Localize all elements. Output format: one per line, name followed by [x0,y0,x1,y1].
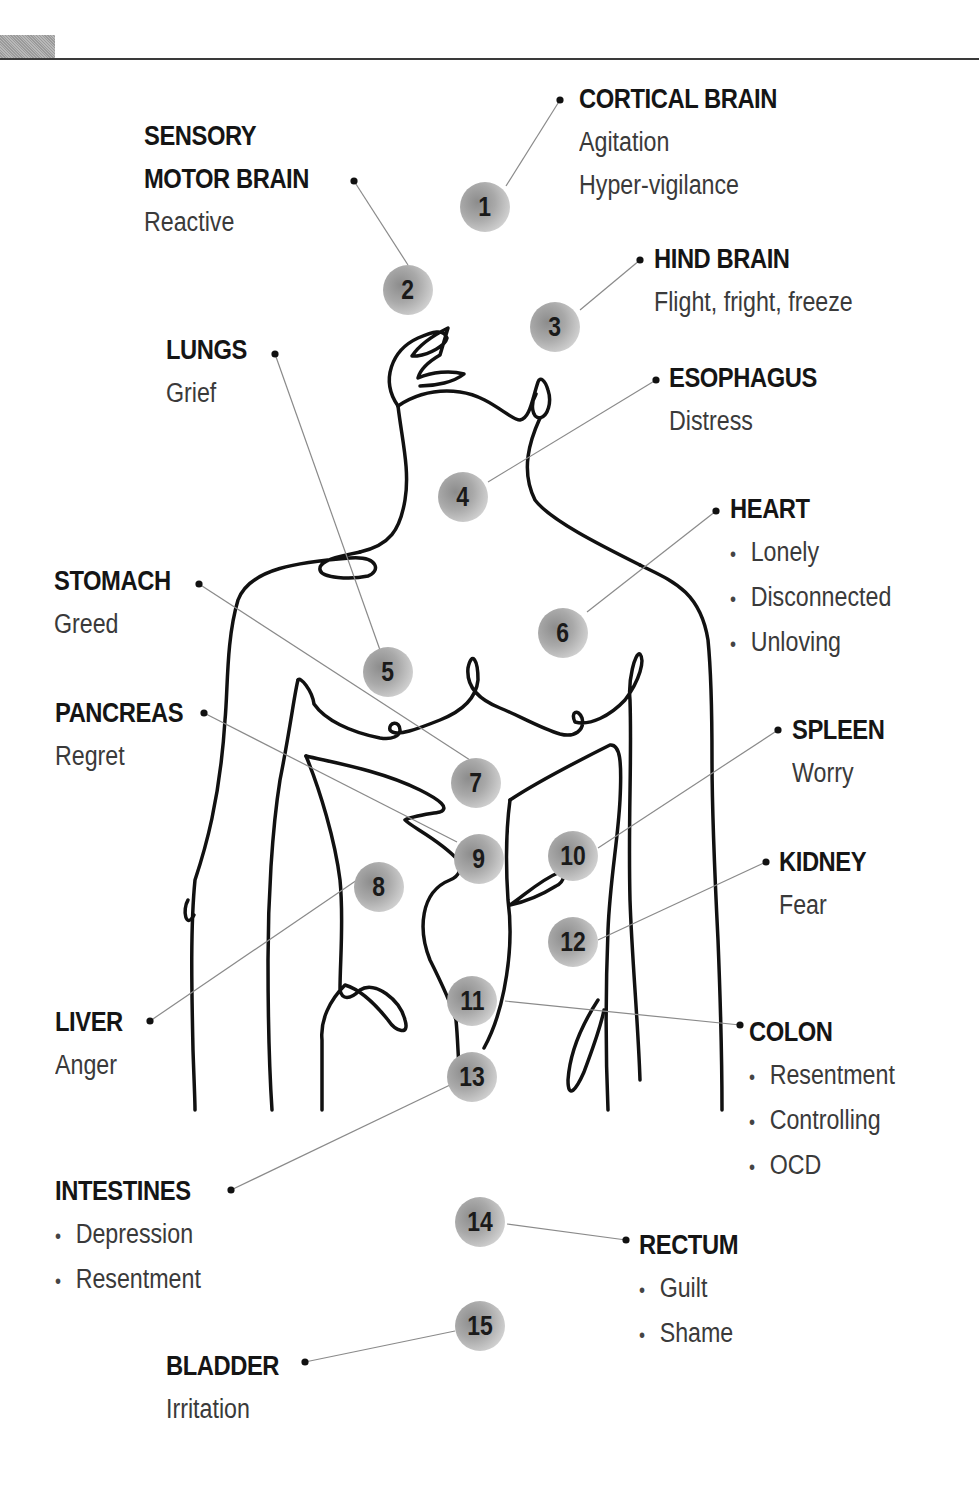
organ-label-sensory-motor-brain: SENSORYMOTOR BRAINReactive [144,115,332,244]
number-marker-15: 15 [455,1301,505,1351]
connector-dot-icon [774,726,781,733]
connector-line [199,584,470,760]
emotion-item: •Controlling [749,1099,895,1144]
organ-label-hind-brain: HIND BRAINFlight, fright, freeze [654,238,885,324]
number-marker-14: 14 [455,1197,505,1247]
emotion-text: Guilt [660,1273,708,1303]
number-marker-11: 11 [447,976,497,1026]
emotion-text: Worry [792,752,882,795]
organ-title: PANCREAS [55,692,183,735]
emotion-item: •Lonely [730,531,891,576]
connector-line [305,1331,455,1362]
organ-label-spleen: SPLEENWorry [792,709,897,795]
connector-dot-icon [736,1021,743,1028]
marker-number: 2 [402,275,415,306]
number-marker-10: 10 [548,831,598,881]
organ-label-kidney: KIDNEYFear [779,841,878,927]
connector-dot-icon [762,858,769,865]
connector-line [231,1085,450,1190]
bullet-icon: • [730,533,751,576]
connector-dot-icon [636,256,643,263]
organ-title: CORTICAL BRAIN [579,78,777,121]
organ-title: KIDNEY [779,841,866,884]
number-marker-4: 4 [438,472,488,522]
marker-number: 13 [459,1062,485,1093]
emotion-text: Resentment [770,1060,895,1090]
emotion-item: •Unloving [730,621,891,666]
connector-line [507,1224,626,1240]
emotion-list: •Lonely•Disconnected•Unloving [730,531,918,666]
organ-title: LUNGS [166,329,247,372]
bullet-icon: • [55,1215,76,1258]
emotion-text: Shame [660,1318,734,1348]
emotion-text: OCD [770,1150,822,1180]
connector-line [580,260,640,310]
organ-title: INTESTINES [55,1170,204,1213]
emotion-text: Controlling [770,1105,881,1135]
organ-label-intestines: INTESTINES•Depression•Resentment [55,1170,225,1303]
number-marker-8: 8 [354,862,404,912]
marker-number: 15 [467,1311,493,1342]
bullet-icon: • [730,623,751,666]
organ-title: LIVER [55,1001,123,1044]
organ-label-rectum: RECTUM•Guilt•Shame [639,1224,752,1357]
connector-line [598,730,778,848]
marker-number: 10 [560,841,586,872]
connector-dot-icon [200,709,207,716]
emotion-item: •Disconnected [730,576,891,621]
connector-line [275,354,380,650]
connector-line [354,181,408,265]
emotion-text: Depression [76,1219,193,1249]
organ-title: STOMACH [54,560,171,603]
marker-number: 4 [457,482,470,513]
connector-line [506,100,560,186]
marker-number: 9 [473,844,486,875]
connector-line [488,380,656,482]
emotion-list: •Resentment•Controlling•OCD [749,1054,919,1189]
emotion-text: Irritation [166,1388,277,1431]
organ-label-esophagus: ESOPHAGUSDistress [669,357,837,443]
organ-title: SENSORY [144,115,309,158]
organ-title: COLON [749,1011,898,1054]
organ-label-lungs: LUNGSGrief [166,329,258,415]
organ-label-bladder: BLADDERIrritation [166,1345,295,1431]
bullet-icon: • [55,1260,76,1303]
connector-line [150,880,357,1021]
connector-dot-icon [227,1186,234,1193]
emotion-text: Flight, fright, freeze [654,281,853,324]
emotion-list: •Guilt•Shame [639,1267,752,1357]
bullet-icon: • [639,1314,660,1357]
organ-title: ESOPHAGUS [669,357,817,400]
emotion-item: •Resentment [749,1054,895,1099]
bullet-icon: • [639,1269,660,1312]
emotion-item: •Resentment [55,1258,201,1303]
connector-line [598,862,766,940]
marker-number: 6 [557,618,570,649]
organ-label-cortical-brain: CORTICAL BRAINAgitationHyper-vigilance [579,78,804,207]
emotion-item: •Guilt [639,1267,736,1312]
number-marker-9: 9 [454,834,504,884]
emotion-text: Anger [55,1044,121,1087]
connector-dot-icon [195,580,202,587]
bullet-icon: • [749,1101,770,1144]
connector-dot-icon [350,177,357,184]
organ-label-stomach: STOMACHGreed [54,560,187,646]
connector-dot-icon [301,1358,308,1365]
emotion-text: Unloving [751,627,841,657]
emotion-item: •Shame [639,1312,736,1357]
emotion-text: Disconnected [751,582,892,612]
number-marker-3: 3 [530,302,580,352]
bullet-icon: • [730,578,751,621]
emotion-text: Grief [166,372,245,415]
marker-number: 7 [470,768,483,799]
emotion-text: Greed [54,603,168,646]
emotion-text: Fear [779,884,864,927]
emotion-text: Reactive [144,201,305,244]
emotion-text: Distress [669,400,814,443]
marker-number: 5 [382,657,395,688]
emotion-text: Resentment [76,1264,201,1294]
bullet-icon: • [749,1146,770,1189]
number-marker-7: 7 [451,758,501,808]
marker-number: 1 [479,192,492,223]
number-marker-5: 5 [363,647,413,697]
